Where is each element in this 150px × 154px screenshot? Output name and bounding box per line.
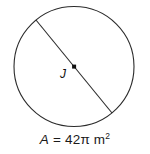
caption-value: 42 — [65, 132, 80, 147]
center-point-label: J — [60, 68, 66, 80]
circle-area-figure: J A = 42π m2 — [0, 0, 150, 154]
caption-pi: π — [80, 132, 90, 147]
caption-equals: = — [53, 132, 61, 147]
caption-unit: m — [94, 132, 105, 147]
geometry-canvas — [0, 0, 150, 154]
center-point-marker — [72, 65, 76, 69]
caption-variable: A — [40, 132, 49, 147]
area-caption: A = 42π m2 — [0, 132, 150, 148]
caption-exponent: 2 — [105, 131, 110, 141]
